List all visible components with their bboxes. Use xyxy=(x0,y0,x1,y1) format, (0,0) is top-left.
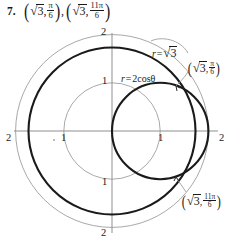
radical-3-first: √3 xyxy=(30,3,43,19)
problem-number: 7. xyxy=(7,5,16,17)
radical-3-pt2: √3 xyxy=(187,193,200,209)
equation-label-2costheta: r = 2cosθ xyxy=(121,73,155,84)
point-label-pi-over-6: (√3, π6) xyxy=(187,60,221,77)
pairs-separator: , xyxy=(61,4,64,18)
x-tick-label-plus2: 2 xyxy=(219,132,224,143)
y-tick-label-minus2: 2 xyxy=(101,227,106,238)
theta-fraction-pt2: 11π6 xyxy=(203,193,216,210)
y-tick-label-minus1: 1 xyxy=(102,176,107,187)
radical-3-pt1: √3 xyxy=(193,60,206,76)
polar-graph: 2 1 1 2 2 1 1 2 r = √3 r = 2cosθ (√3, π6… xyxy=(0,20,238,244)
x-tick-label-minus1: 1 xyxy=(61,132,66,143)
theta-fraction-pt1: π6 xyxy=(209,60,215,77)
theta-fraction-2: 11π6 xyxy=(90,1,104,20)
radical-3-equation: √3 xyxy=(163,45,176,61)
y-tick-label-plus2: 2 xyxy=(101,26,106,37)
figure-page: 7. (√3, π6), (√3, 11π6) xyxy=(0,0,238,244)
x-tick-label-minus2: 2 xyxy=(6,132,11,143)
equation-label-sqrt3: r = √3 xyxy=(152,45,176,61)
polar-plot-svg xyxy=(0,20,238,244)
radical-3-second: √3 xyxy=(72,3,85,19)
x-tick-label-plus1: 1 xyxy=(158,132,163,143)
theta-fraction-1: π6 xyxy=(47,1,53,20)
point-label-11pi-over-6: (√3, 11π6) xyxy=(181,193,222,210)
y-tick-label-plus1: 1 xyxy=(102,75,107,86)
problem-coordinate-pairs: (√3, π6), (√3, 11π6) xyxy=(23,2,111,21)
stray-dot xyxy=(53,139,55,141)
